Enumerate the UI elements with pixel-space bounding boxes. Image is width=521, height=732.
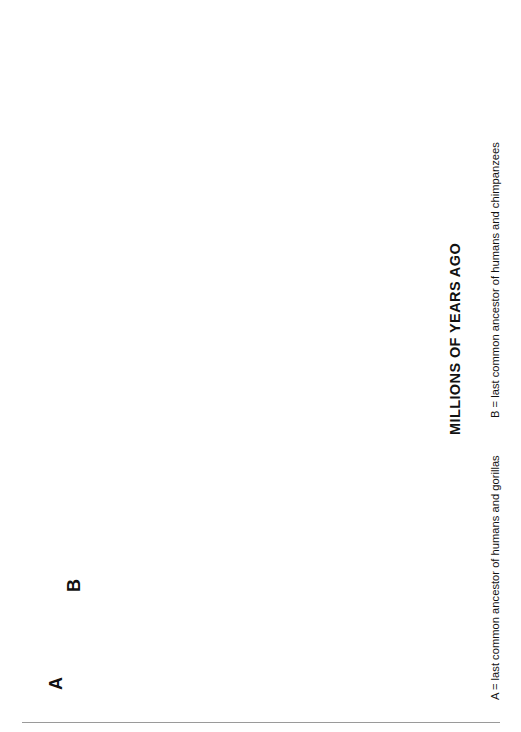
footer-rule [22, 722, 500, 723]
phylogenetic-tree-plot: A B [0, 0, 421, 700]
node-b-letter: B [64, 579, 85, 592]
figure-page: A B MILLIONS OF YEARS AGO A = last commo… [0, 0, 521, 732]
axis-title: MILLIONS OF YEARS AGO [447, 243, 463, 435]
node-a-letter: A [46, 677, 67, 690]
legend-a: A = last common ancestor of humans and g… [489, 455, 501, 700]
legend-b: B = last common ancestor of humans and c… [489, 142, 501, 418]
